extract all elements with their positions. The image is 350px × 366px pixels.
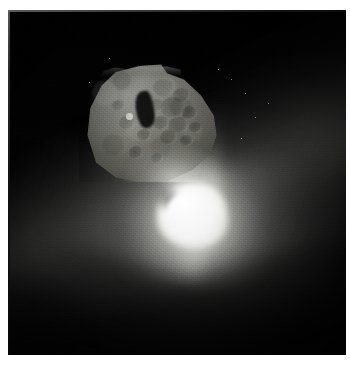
scan-edge-left xyxy=(8,10,10,355)
screenshot-root xyxy=(0,0,350,366)
photo-frame xyxy=(8,10,346,355)
film-grain-diagonal xyxy=(8,10,346,355)
scan-edge-top xyxy=(8,10,346,12)
